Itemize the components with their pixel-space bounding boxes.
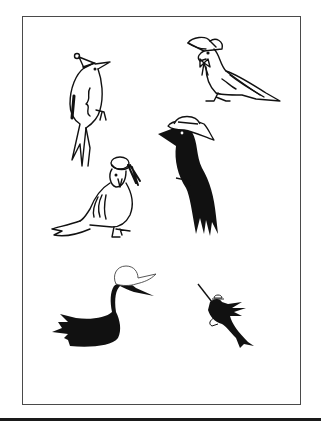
crow-illustration: Black crow in straw hat: [156, 116, 236, 238]
hummingbird-illustration: Black hummingbird with small hat: [196, 280, 262, 350]
parrot-illustration: Outlined long-tailed bird in boater hat: [50, 155, 146, 239]
pigeon-icon: [186, 35, 282, 107]
crow-icon: [156, 116, 236, 238]
hummingbird-icon: [196, 280, 262, 350]
woodpecker-illustration: Outlined woodpecker in pom-pom cap: [62, 48, 122, 168]
woodpecker-icon: [62, 48, 122, 168]
pigeon-illustration: Outlined pigeon in bonnet with bow: [186, 35, 282, 107]
duck-icon: [50, 262, 160, 352]
duck-illustration: Black duck in white cap: [50, 262, 160, 352]
parrot-icon: [50, 155, 146, 239]
